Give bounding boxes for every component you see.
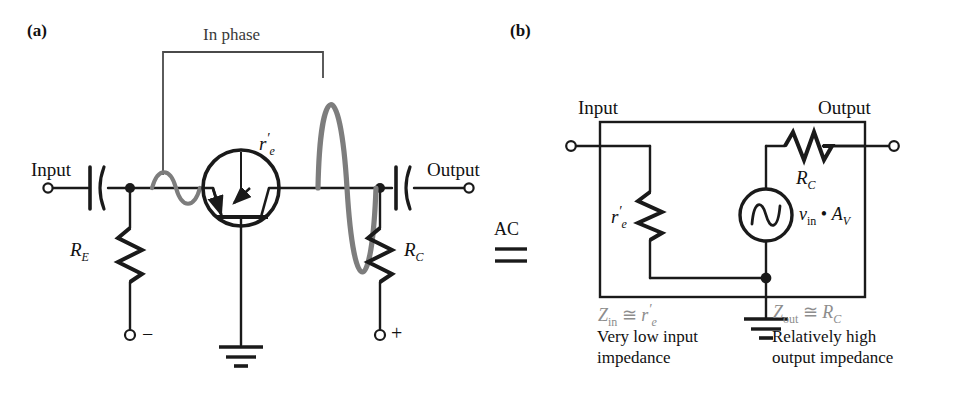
source-expression-label: vin • AV [799,205,850,227]
input-coupling-capacitor [90,167,104,209]
output-impedance-note-1: Relatively high [772,327,876,346]
bias-minus-label: − [142,324,153,344]
dependent-voltage-source [740,189,792,241]
output-label-a: Output [427,160,480,179]
panel-a-group [43,52,473,366]
emitter-resistor-symbol [118,228,142,282]
bias-plus-label: + [391,323,402,343]
ac-equivalence-label: AC [494,220,519,238]
ground-symbol-a [219,347,263,366]
re-label-a: r′e [259,132,275,157]
series-resistor-label: RC [796,168,816,191]
series-resistor-symbol [785,132,832,160]
input-impedance-note-1: Very low input [597,327,698,346]
shunt-resistor-symbol [638,192,662,240]
in-phase-label: In phase [203,26,260,43]
common-node-dot [761,273,772,284]
input-label-b: Input [578,98,618,117]
output-terminal-b [889,141,899,151]
input-terminal-b [566,141,576,151]
panel-a-wires [52,188,465,345]
shunt-resistor-label: r′e [611,205,627,230]
equivalence-symbol [495,249,527,261]
output-terminal-a [464,183,473,192]
output-impedance-note-2: output impedance [772,348,893,367]
panel-b-wires [576,146,889,318]
z-out-label: Zout ≅ RC [773,303,841,325]
output-label-b: Output [818,98,871,117]
z-in-label: Zin ≅ r′e [598,303,657,328]
panel-a-tag: (a) [27,22,47,39]
input-terminal-a [43,183,52,192]
emitter-resistor-label: RE [70,240,89,263]
bias-positive-terminal [375,330,385,340]
bias-negative-terminal [125,330,135,340]
panel-b-tag: (b) [510,22,531,39]
emitter-node-dot [125,183,135,193]
collector-resistor-label: RC [404,240,424,263]
output-coupling-capacitor [396,167,410,209]
input-label-a: Input [31,160,71,179]
input-impedance-note-2: impedance [597,348,671,367]
figure-canvas: (a) In phase Input Output r′e RE RC − + … [0,0,953,410]
in-phase-bracket [163,52,323,175]
